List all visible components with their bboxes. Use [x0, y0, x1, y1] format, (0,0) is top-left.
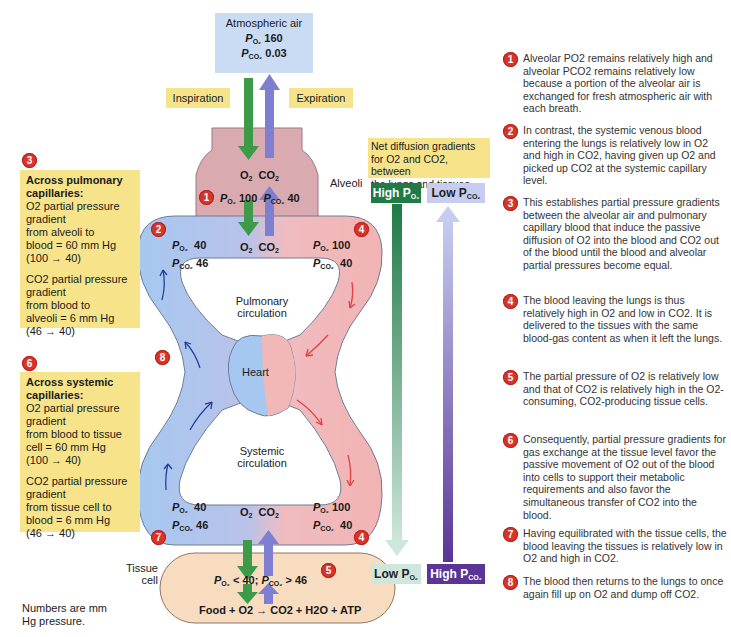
pulmonary-venous-pressures: PO₂ 40 PCO₂ 46: [172, 238, 208, 274]
badge-4-top: 4: [354, 222, 369, 237]
alveoli-label: Alveoli: [330, 177, 362, 189]
footnote: Numbers are mmHg pressure.: [22, 602, 107, 628]
systemic-o2-gradient: O2 partial pressuregradient from blood t…: [26, 402, 134, 467]
net-diffusion-gradients-box: Net diffusion gradientsfor O2 and CO2, b…: [368, 138, 490, 178]
note-7: Having equilibrated with the tissue cell…: [523, 527, 728, 565]
co2-gradient-arrow: [443, 218, 453, 562]
note-badge-4: 4: [503, 294, 518, 309]
note-badge-7: 7: [503, 527, 518, 542]
systemic-co2-gradient: CO2 partial pressuregradient from tissue…: [26, 475, 134, 540]
note-1: Alveolar PO2 remains relatively high and…: [523, 52, 728, 115]
alveoli-pressures: PO₂ 100 PCO₂ 40: [220, 191, 300, 209]
badge-3: 3: [22, 153, 37, 168]
note-5: The partial pressure of O2 is relatively…: [523, 370, 728, 408]
heart-label: Heart: [242, 366, 269, 378]
note-badge-2: 2: [503, 124, 518, 139]
badge-6: 6: [22, 356, 37, 371]
inspiration-label: Inspiration: [166, 88, 230, 108]
badge-8: 8: [155, 350, 170, 365]
note-3: This establishes partial pressure gradie…: [523, 196, 728, 272]
pulmonary-capillaries-box: Across pulmonary capillaries: O2 partial…: [20, 170, 140, 328]
badge-1: 1: [199, 190, 214, 205]
note-4: The blood leaving the lungs is thus rela…: [523, 294, 728, 344]
note-badge-5: 5: [503, 370, 518, 385]
systemic-gases: O2 CO2: [240, 505, 279, 523]
note-badge-6: 6: [503, 433, 518, 448]
atmospheric-pco2: 0.03: [265, 47, 286, 59]
pulmonary-o2-gradient: O2 partial pressuregradient from alveoli…: [26, 200, 134, 265]
high-pco2-label: High PCO₂: [427, 564, 485, 584]
pulmonary-co2-gradient: CO2 partial pressuregradient from blood …: [26, 273, 134, 338]
expiration-arrow: [259, 74, 280, 90]
high-po2-label: High PO₂: [371, 183, 421, 203]
note-6: Consequently, partial pressure gradients…: [523, 433, 728, 521]
badge-2: 2: [151, 222, 166, 237]
pulmonary-arterial-pressures: PO₂ 100 PCO₂ 40: [313, 238, 352, 274]
atmospheric-po2: 160: [264, 32, 282, 44]
atmospheric-title: Atmospheric air: [215, 17, 313, 29]
systemic-capillaries-box: Across systemic capillaries: O2 partial …: [20, 372, 140, 532]
systemic-venous-pressures: PO₂ 40 PCO₂ 46: [172, 500, 208, 536]
alveoli-gases: O2 CO2: [240, 168, 279, 186]
note-badge-8: 8: [503, 575, 518, 590]
note-badge-1: 1: [503, 52, 518, 67]
systemic-circulation-label: Systemiccirculation: [222, 445, 302, 469]
badge-7: 7: [151, 530, 166, 545]
tissue-pressures: PO₂ < 40; PCO₂ > 46: [214, 573, 307, 591]
note-badge-3: 3: [503, 196, 518, 211]
systemic-arterial-pressures: PO₂ 100 PCO₂ 40: [313, 500, 352, 536]
tissue-cell-label: Tissuecell: [112, 562, 158, 586]
badge-5: 5: [321, 563, 336, 578]
atmospheric-air-box: Atmospheric air PO₂ 160 PCO₂ 0.03: [215, 13, 313, 73]
low-po2-label: Low PO₂: [371, 564, 421, 584]
pulmonary-circulation-label: Pulmonarycirculation: [222, 295, 302, 319]
low-pco2-label: Low PCO₂: [427, 183, 485, 203]
note-2: In contrast, the systemic venous blood e…: [523, 124, 728, 187]
tissue-equation: Food + O2 → CO2 + H2O + ATP: [199, 603, 361, 617]
expiration-label: Expiration: [289, 88, 353, 108]
pulmonary-gases: O2 CO2: [240, 240, 279, 258]
badge-4-bottom: 4: [354, 530, 369, 545]
o2-gradient-arrow: [392, 204, 402, 544]
note-8: The blood then returns to the lungs to o…: [523, 575, 728, 600]
